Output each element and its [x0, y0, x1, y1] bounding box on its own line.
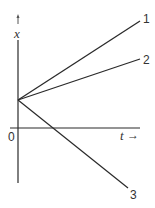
y-axis-label: x — [13, 26, 20, 41]
y-axis-arrowhead-icon — [17, 14, 20, 18]
t-axis-arrow-icon: → — [127, 128, 139, 142]
t-axis-label: t — [120, 128, 124, 143]
line-3-label: 3 — [130, 188, 137, 202]
origin-label: 0 — [8, 130, 15, 144]
line-2-label: 2 — [143, 53, 150, 67]
position-time-graph: x 0 t → 1 2 3 — [0, 0, 155, 208]
line-1-label: 1 — [143, 12, 150, 26]
line-2 — [18, 59, 140, 100]
line-3 — [18, 100, 128, 188]
line-1 — [18, 21, 140, 100]
